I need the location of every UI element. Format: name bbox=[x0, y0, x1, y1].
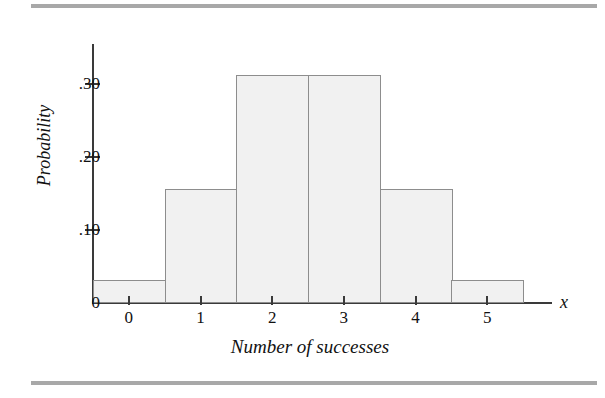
x-axis-tick bbox=[415, 296, 417, 305]
x-axis-tick-label: 2 bbox=[252, 309, 292, 328]
x-axis-tick bbox=[486, 296, 488, 305]
x-axis-tick bbox=[200, 296, 202, 305]
x-axis-tick-label: 0 bbox=[109, 309, 149, 328]
y-axis-tick-label: .30 bbox=[54, 75, 100, 92]
histogram-plot-area: 0.10.20.30 012345 Probability Number of … bbox=[0, 0, 605, 398]
histogram-bar bbox=[308, 75, 381, 303]
x-variable-label: x bbox=[560, 292, 568, 313]
histogram-bar bbox=[236, 75, 309, 303]
x-axis-tick bbox=[271, 296, 273, 305]
y-axis-tick-label: .10 bbox=[54, 221, 100, 238]
y-axis-tick-label: 0 bbox=[54, 294, 100, 311]
x-axis-tick-label: 3 bbox=[324, 309, 364, 328]
x-axis-tick bbox=[128, 296, 130, 305]
y-axis-title: Probability bbox=[34, 76, 55, 216]
x-axis-tick-label: 4 bbox=[396, 309, 436, 328]
histogram-bar bbox=[165, 189, 238, 303]
figure-container: 0.10.20.30 012345 Probability Number of … bbox=[0, 0, 605, 398]
x-axis-tick-label: 1 bbox=[181, 309, 221, 328]
x-axis-tick bbox=[343, 296, 345, 305]
y-axis-tick-label: .20 bbox=[54, 148, 100, 165]
x-axis-title: Number of successes bbox=[140, 336, 480, 358]
histogram-bar bbox=[380, 189, 453, 303]
x-axis-tick-label: 5 bbox=[467, 309, 507, 328]
